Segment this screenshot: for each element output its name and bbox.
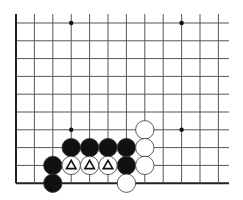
white-stone[interactable] — [136, 138, 154, 156]
black-stone[interactable] — [80, 138, 98, 156]
star-point — [69, 128, 73, 132]
star-point — [179, 21, 183, 25]
star-point — [179, 128, 183, 132]
white-stone[interactable] — [136, 121, 154, 139]
white-stone[interactable] — [136, 156, 154, 174]
white-stone[interactable] — [117, 174, 135, 192]
go-board — [0, 0, 243, 200]
star-point — [69, 21, 73, 25]
black-stone[interactable] — [117, 156, 135, 174]
black-stone[interactable] — [117, 138, 135, 156]
black-stone[interactable] — [44, 174, 62, 192]
black-stone[interactable] — [62, 138, 80, 156]
black-stone[interactable] — [99, 138, 117, 156]
black-stone[interactable] — [44, 156, 62, 174]
